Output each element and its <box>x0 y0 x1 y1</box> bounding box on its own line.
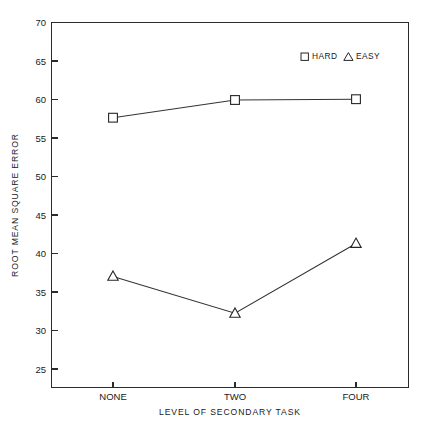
legend-label: HARD <box>312 51 337 61</box>
x-tick-none: NONE <box>99 382 126 403</box>
data-point-marker <box>351 238 361 247</box>
chart-figure: 70 65 60 55 50 45 <box>0 0 428 425</box>
legend-entry-hard[interactable]: HARD <box>301 51 337 61</box>
y-tick-label: 40 <box>35 248 46 259</box>
axes-border <box>52 23 409 388</box>
plot-frame <box>52 23 409 388</box>
y-tick-65: 65 <box>35 56 57 67</box>
y-tick-label: 55 <box>35 133 46 144</box>
y-tick-35: 35 <box>35 287 57 298</box>
data-point-marker <box>231 96 240 105</box>
series-easy <box>108 238 361 317</box>
y-tick-label: 65 <box>35 56 46 67</box>
data-point-marker <box>108 271 118 280</box>
series-hard <box>109 95 361 122</box>
y-tick-50: 50 <box>35 171 57 182</box>
y-tick-label: 60 <box>35 94 46 105</box>
legend-label: EASY <box>356 51 380 61</box>
x-tick-label: TWO <box>224 391 246 402</box>
y-tick-label: 35 <box>35 287 46 298</box>
legend-entry-easy[interactable]: EASY <box>344 51 380 61</box>
y-tick-60: 60 <box>35 94 57 105</box>
legend-square-icon <box>301 53 308 60</box>
data-point-marker <box>109 113 118 122</box>
y-tick-55: 55 <box>35 133 57 144</box>
x-tick-four: FOUR <box>343 382 370 403</box>
y-tick-label: 70 <box>35 17 46 28</box>
y-axis: 70 65 60 55 50 45 <box>35 17 57 375</box>
y-tick-label: 45 <box>35 210 46 221</box>
series-line-easy <box>113 244 356 314</box>
legend-triangle-icon <box>344 53 353 61</box>
y-tick-label: 30 <box>35 325 46 336</box>
y-tick-25: 25 <box>35 364 57 375</box>
y-tick-30: 30 <box>35 325 57 336</box>
y-tick-label: 50 <box>35 171 46 182</box>
y-axis-title: ROOT MEAN SQUARE ERROR <box>10 133 20 277</box>
y-tick-45: 45 <box>35 210 57 221</box>
y-tick-label: 25 <box>35 364 46 375</box>
x-axis-title: LEVEL OF SECONDARY TASK <box>159 407 301 417</box>
data-point-marker <box>352 95 361 104</box>
chart-legend: HARD EASY <box>301 51 380 61</box>
x-tick-label: FOUR <box>343 391 370 402</box>
y-tick-70: 70 <box>35 17 57 28</box>
x-tick-two: TWO <box>224 382 246 403</box>
x-axis: NONE TWO FOUR <box>99 382 369 403</box>
y-tick-40: 40 <box>35 248 57 259</box>
line-chart: 70 65 60 55 50 45 <box>0 0 428 425</box>
x-tick-label: NONE <box>99 391 126 402</box>
